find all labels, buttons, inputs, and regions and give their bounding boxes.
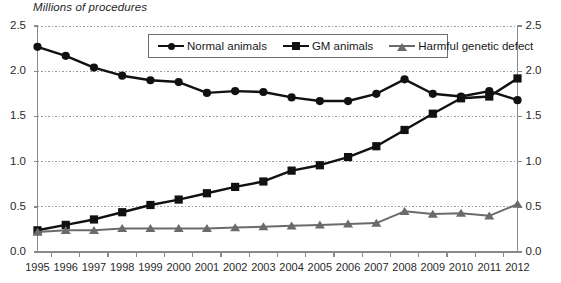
legend-label-harmful-genetic-defect: Harmful genetic defect: [418, 40, 533, 52]
chart-legend: Normal animals GM animals Harmful geneti…: [148, 34, 448, 58]
y-axis-left-tick-label: 0.0: [2, 245, 26, 257]
x-axis-tick-label: 1998: [107, 261, 137, 273]
x-axis-tick-label: 2001: [192, 261, 222, 273]
y-axis-right-tick-label: 0.0: [526, 245, 552, 257]
y-axis-left-tick-label: 1.5: [2, 109, 26, 121]
y-axis-left-tick-label: 2.0: [2, 64, 26, 76]
x-axis-tick-label: 2000: [164, 261, 194, 273]
y-axis-right-tick-label: 2.5: [526, 19, 552, 31]
y-axis-right-tick-label: 2.0: [526, 64, 552, 76]
y-axis-left-tick-label: 2.5: [2, 19, 26, 31]
y-axis-right-tick-label: 1.0: [526, 155, 552, 167]
x-axis-tick-label: 2006: [333, 261, 363, 273]
x-axis-tick-label: 2004: [277, 261, 307, 273]
legend-label-normal-animals: Normal animals: [187, 40, 267, 52]
y-axis-right-tick-label: 1.5: [526, 109, 552, 121]
legend-marker-circle-icon: [158, 41, 184, 52]
x-axis-tick-label: 2012: [503, 261, 533, 273]
x-axis-tick-label: 1999: [135, 261, 165, 273]
x-axis-tick-label: 2007: [361, 261, 391, 273]
chart-container: Millions of procedures 2.52.01.51.00.50.…: [0, 0, 561, 283]
legend-marker-square-icon: [283, 41, 309, 52]
legend-label-gm-animals: GM animals: [312, 40, 373, 52]
x-axis-tick-label: 2008: [390, 261, 420, 273]
x-axis-tick-label: 1995: [23, 261, 53, 273]
x-axis-tick-label: 2011: [474, 261, 504, 273]
legend-item-gm-animals: GM animals: [283, 40, 373, 52]
x-axis-tick-label: 2005: [305, 261, 335, 273]
x-axis-tick-label: 1996: [51, 261, 81, 273]
y-axis-left-tick-label: 0.5: [2, 200, 26, 212]
x-axis-tick-label: 1997: [79, 261, 109, 273]
legend-item-harmful-genetic-defect: Harmful genetic defect: [389, 40, 533, 52]
x-axis-tick-label: 2010: [446, 261, 476, 273]
x-axis-tick-label: 2003: [248, 261, 278, 273]
legend-item-normal-animals: Normal animals: [158, 40, 267, 52]
x-axis-tick-label: 2009: [418, 261, 448, 273]
x-axis-tick-label: 2002: [220, 261, 250, 273]
y-axis-left-tick-label: 1.0: [2, 155, 26, 167]
legend-marker-triangle-icon: [389, 41, 415, 52]
y-axis-right-tick-label: 0.5: [526, 200, 552, 212]
